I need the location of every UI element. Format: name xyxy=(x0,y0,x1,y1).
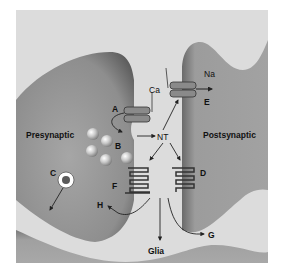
label-h: H xyxy=(97,200,103,210)
marker-c xyxy=(58,172,74,188)
label-g: G xyxy=(208,230,215,240)
label-calcium: Ca xyxy=(149,85,160,95)
label-neurotransmitter: NT xyxy=(157,132,168,142)
label-a: A xyxy=(112,104,118,114)
receptor-d xyxy=(172,168,194,192)
synapse-diagram: Presynaptic Postsynaptic Glia Ca Na NT A… xyxy=(0,0,283,276)
label-sodium: Na xyxy=(204,69,215,79)
label-e: E xyxy=(204,97,210,107)
label-postsynaptic: Postsynaptic xyxy=(203,130,256,140)
label-presynaptic: Presynaptic xyxy=(26,130,74,140)
label-glia: Glia xyxy=(148,246,164,256)
label-c: C xyxy=(50,168,56,178)
label-b: B xyxy=(115,141,121,151)
label-d: D xyxy=(200,168,206,178)
label-f: F xyxy=(112,181,117,191)
